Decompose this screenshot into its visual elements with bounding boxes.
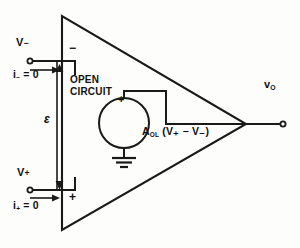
noninverting-current-arrow-head (52, 195, 60, 202)
output-voltage-label: vO (264, 78, 276, 91)
inverting-polarity-sign: − (69, 41, 76, 55)
noninverting-input-label: V+ (17, 166, 30, 178)
dependent-source-circle (99, 98, 149, 148)
open-circuit-label: OPENCIRCUIT (70, 74, 112, 98)
noninverting-polarity-sign: + (69, 190, 76, 204)
epsilon-label: ε (44, 112, 50, 126)
inverting-input-label: V− (16, 36, 29, 48)
inverting-current-label: i− = 0 (13, 68, 39, 81)
noninverting-input-terminal (27, 187, 32, 192)
dependent-source-label: AOL (V₊ − V₋) (142, 125, 209, 138)
output-terminal (280, 121, 285, 126)
source-polarity-sign: + (118, 93, 125, 105)
noninverting-current-label: i+ = 0 (13, 199, 39, 212)
inverting-input-terminal (27, 58, 32, 63)
dependent-source-output-wire (124, 91, 246, 124)
